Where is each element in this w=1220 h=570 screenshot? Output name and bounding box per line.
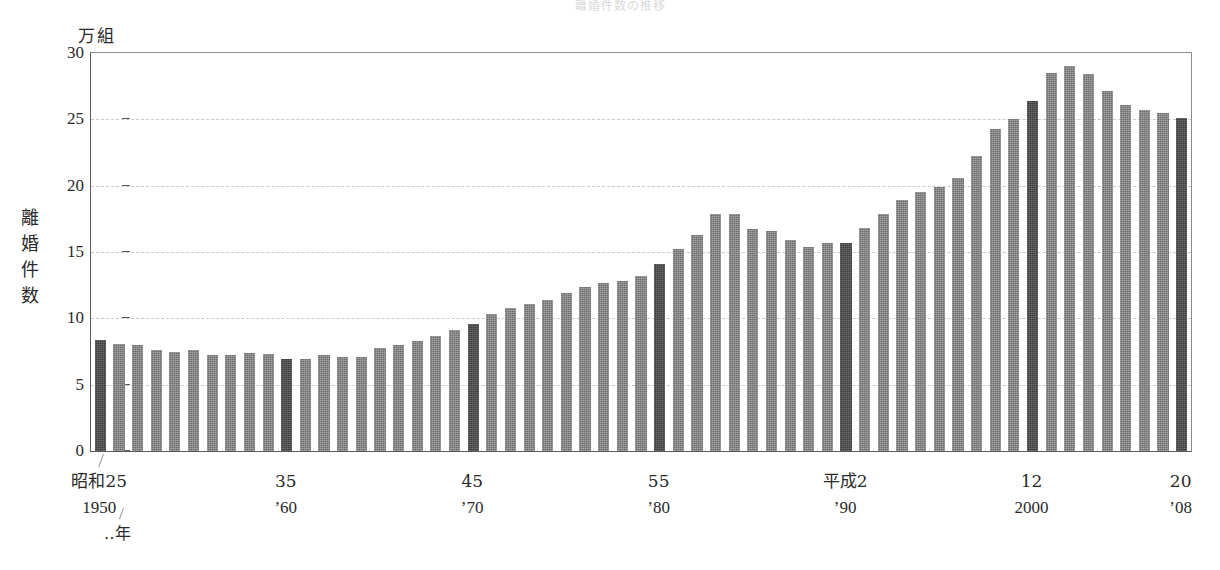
bar [169, 352, 180, 452]
y-axis-title-char: 離 [18, 205, 42, 231]
divorce-trend-chart: 離婚件数の推移 万組 離婚件数 051015202530 昭和25195035’… [0, 0, 1220, 570]
bar [300, 359, 311, 451]
bar [505, 308, 516, 451]
bar [840, 243, 851, 451]
x-axis-tick-group: 20’08 [1169, 472, 1192, 517]
x-axis-western-year-label: 2000 [1015, 498, 1049, 517]
x-axis-era-label: 昭和25 [71, 472, 127, 491]
y-axis-tick-label: 25 [50, 110, 84, 127]
x-axis-western-year-label: ’80 [647, 498, 670, 517]
y-axis-title-char: 件 [18, 257, 42, 283]
y-axis-title-char: 数 [18, 283, 42, 309]
x-axis-western-year-label: ’08 [1169, 498, 1192, 517]
bar [579, 287, 590, 452]
bar [691, 235, 702, 451]
x-axis-era-label: 20 [1169, 472, 1192, 491]
bar [635, 276, 646, 451]
bar [1046, 73, 1057, 451]
bar [673, 249, 684, 451]
y-axis-tick-label: 15 [50, 243, 84, 260]
bar [1157, 113, 1168, 451]
bar [430, 336, 441, 451]
bar [1027, 101, 1038, 451]
bar [263, 354, 274, 451]
y-axis-title: 離婚件数 [18, 205, 42, 309]
bar [952, 178, 963, 451]
bar [337, 357, 348, 451]
x-axis-era-label: 平成2 [823, 472, 868, 491]
x-axis-tick-connector [99, 454, 105, 467]
x-axis-tick-group: 昭和251950 [71, 472, 127, 517]
bar [244, 353, 255, 451]
x-axis-western-year-label: ’70 [461, 498, 484, 517]
x-axis-tick-group: 45’70 [461, 472, 484, 517]
bar [356, 357, 367, 451]
chart-title: 離婚件数の推移 [300, 0, 940, 12]
bar [971, 156, 982, 451]
x-axis-tick-group: 35’60 [274, 472, 297, 517]
x-axis-era-label: 12 [1015, 472, 1049, 491]
plot-area [90, 52, 1192, 452]
bar [449, 330, 460, 451]
bar [486, 314, 497, 451]
bar [729, 214, 740, 451]
bar [990, 129, 1001, 451]
bar [95, 340, 106, 451]
y-axis-tick-label: 30 [50, 44, 84, 61]
bar [654, 264, 665, 451]
bar [785, 240, 796, 451]
bar [468, 324, 479, 451]
bar [1139, 110, 1150, 451]
bar [281, 359, 292, 451]
bar [132, 345, 143, 451]
x-axis-era-label: 35 [274, 472, 297, 491]
bar [747, 229, 758, 451]
x-axis-western-year-label: ’90 [823, 498, 868, 517]
bar [374, 348, 385, 451]
bar [1120, 105, 1131, 451]
bar [412, 341, 423, 451]
x-axis-tick-group: 122000 [1015, 472, 1049, 517]
bar [1102, 91, 1113, 451]
bar [896, 200, 907, 451]
bar [1083, 74, 1094, 451]
bar [1008, 119, 1019, 451]
x-axis-unit-label: ‥年 [104, 520, 131, 544]
bar [766, 231, 777, 451]
x-axis-western-year-label: 1950 [71, 498, 127, 517]
bar [207, 355, 218, 451]
bar [393, 345, 404, 451]
bar [524, 304, 535, 451]
x-axis-era-label: 45 [461, 472, 484, 491]
bar [859, 228, 870, 451]
bar [151, 350, 162, 451]
bar [822, 243, 833, 451]
bar [113, 344, 124, 451]
bar [561, 293, 572, 451]
bar [188, 350, 199, 451]
y-axis-tick-label: 10 [50, 309, 84, 326]
bar [617, 281, 628, 451]
bar [710, 214, 721, 451]
bar [598, 283, 609, 451]
x-axis-tick-group: 平成2’90 [823, 472, 868, 517]
bar [803, 247, 814, 451]
bar [1176, 118, 1187, 451]
bar [1064, 66, 1075, 451]
bar [318, 355, 329, 451]
y-axis-tick-label: 20 [50, 177, 84, 194]
y-axis-tick-label: 5 [50, 376, 84, 393]
y-axis-title-char: 婚 [18, 231, 42, 257]
bar-series [91, 53, 1191, 451]
x-axis-western-year-label: ’60 [274, 498, 297, 517]
y-axis-tick-label: 0 [50, 442, 84, 459]
bar [878, 214, 889, 451]
x-axis-era-label: 55 [647, 472, 670, 491]
bar [542, 300, 553, 451]
bar [934, 187, 945, 451]
bar [915, 192, 926, 451]
x-axis-tick-group: 55’80 [647, 472, 670, 517]
bar [225, 355, 236, 451]
